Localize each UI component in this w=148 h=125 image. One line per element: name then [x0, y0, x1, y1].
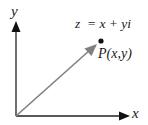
equation-label: z = x + yi — [75, 17, 131, 31]
y-axis-arrowhead-icon — [12, 21, 21, 32]
y-axis — [12, 21, 21, 116]
point-p — [98, 38, 103, 43]
x-axis — [16, 112, 130, 121]
point-label: P(x,y) — [98, 47, 132, 61]
position-vector — [16, 44, 97, 116]
x-axis-label: x — [132, 106, 139, 121]
x-axis-arrowhead-icon — [119, 112, 130, 121]
y-axis-label: y — [11, 4, 18, 19]
